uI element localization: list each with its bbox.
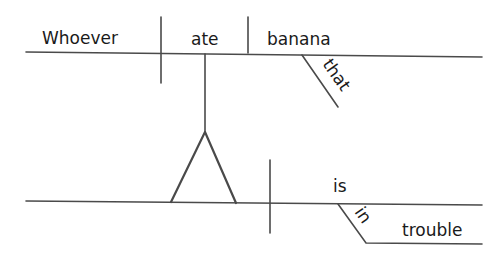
word-in: in xyxy=(351,203,376,227)
clause-pedestal xyxy=(171,54,236,203)
subject-clause: Whoever ate banana that xyxy=(26,17,482,107)
word-whoever: Whoever xyxy=(42,28,118,48)
sentence-diagram: Whoever ate banana that is in trouble xyxy=(0,0,498,260)
word-is: is xyxy=(333,176,347,196)
word-trouble: trouble xyxy=(402,220,462,240)
main-baseline xyxy=(26,201,482,205)
word-banana: banana xyxy=(267,29,331,49)
top-baseline xyxy=(26,52,482,57)
pedestal-triangle xyxy=(171,132,236,203)
word-that: that xyxy=(319,55,355,95)
word-ate: ate xyxy=(191,29,219,49)
main-clause: is in trouble xyxy=(26,160,482,244)
